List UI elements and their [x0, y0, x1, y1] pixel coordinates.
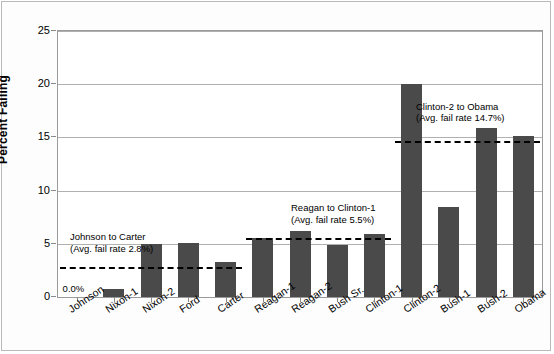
gridline-y-20 [58, 84, 542, 85]
bar-ford[interactable] [178, 243, 199, 297]
annotation-title-johnson-to-carter: Johnson to Carter [70, 231, 153, 243]
gridline-y-25 [58, 31, 542, 32]
y-tick-label-15: 15 [24, 130, 50, 142]
annotation-detail-johnson-to-carter: (Avg. fail rate 2.8%) [70, 243, 153, 255]
annotation-reagan-to-clinton-1: Reagan to Clinton-1(Avg. fail rate 5.5%) [291, 202, 376, 225]
data-label-johnson: 0.0% [63, 283, 85, 294]
y-tick-label-5: 5 [24, 237, 50, 249]
y-axis-tick-25 [51, 30, 56, 31]
y-tick-label-25: 25 [24, 24, 50, 36]
annotation-detail-clinton-2-to-obama: (Avg. fail rate 14.7%) [416, 112, 505, 124]
annotation-title-reagan-to-clinton-1: Reagan to Clinton-1 [291, 202, 376, 214]
reference-line-reagan-to-clinton-1 [246, 238, 391, 240]
bar-clinton-1[interactable] [364, 234, 385, 297]
y-axis-tick-5 [51, 243, 56, 244]
reference-line-johnson-to-carter [60, 267, 242, 269]
plot-area: 0.0%Johnson to Carter(Avg. fail rate 2.8… [57, 30, 543, 298]
annotation-johnson-to-carter: Johnson to Carter(Avg. fail rate 2.8%) [70, 231, 153, 254]
bar-obama[interactable] [513, 136, 534, 297]
figure-frame: Percent Failing 0.0%Johnson to Carter(Av… [1, 1, 551, 351]
y-axis-tick-15 [51, 136, 56, 137]
y-tick-label-20: 20 [24, 77, 50, 89]
reference-line-clinton-2-to-obama [395, 141, 540, 143]
y-axis-title: Percent Failing [0, 75, 10, 164]
y-axis-tick-10 [51, 190, 56, 191]
bar-bush-2[interactable] [476, 128, 497, 297]
y-axis-tick-0 [51, 296, 56, 297]
bar-bush-1[interactable] [438, 207, 459, 297]
gridline-y-10 [58, 191, 542, 192]
annotation-clinton-2-to-obama: Clinton-2 to Obama(Avg. fail rate 14.7%) [416, 101, 505, 124]
annotation-detail-reagan-to-clinton-1: (Avg. fail rate 5.5%) [291, 214, 376, 226]
y-axis-tick-20 [51, 83, 56, 84]
gridline-y-15 [58, 137, 542, 138]
bar-reagan-1[interactable] [252, 238, 273, 297]
y-tick-label-10: 10 [24, 184, 50, 196]
annotation-title-clinton-2-to-obama: Clinton-2 to Obama [416, 101, 505, 113]
chart-page: Percent Failing 0.0%Johnson to Carter(Av… [0, 0, 554, 354]
y-tick-label-0: 0 [24, 290, 50, 302]
